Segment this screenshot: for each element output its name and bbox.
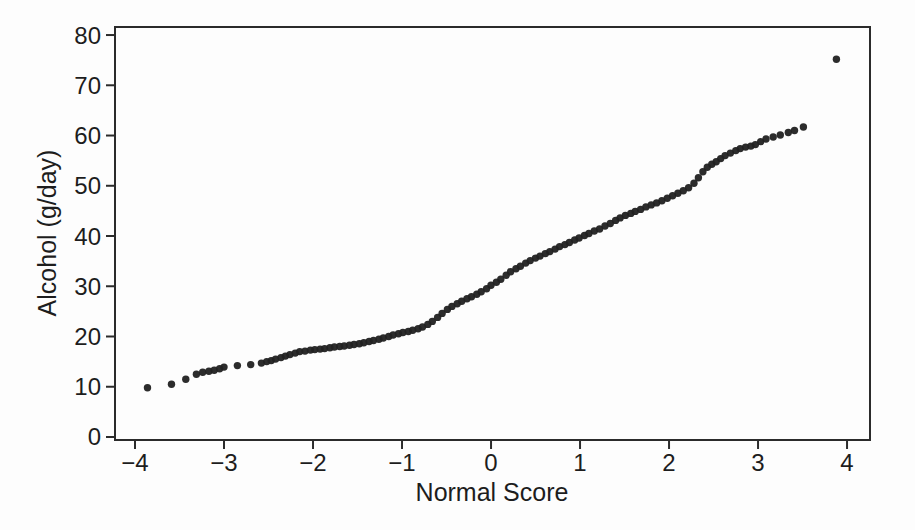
data-point [193,371,200,378]
data-point [220,363,227,370]
y-tick-label: 50 [74,172,101,199]
y-tick-label: 70 [74,72,101,99]
x-tick-label: −3 [210,449,237,476]
x-axis-ticks: −4−3−2−101234 [121,440,853,476]
y-tick-label: 40 [74,223,101,250]
x-tick-label: 3 [751,449,764,476]
data-point [182,376,189,383]
y-axis-ticks: 01020304050607080 [74,22,115,451]
y-tick-label: 80 [74,22,101,49]
data-point [791,127,798,134]
x-tick-label: −4 [121,449,148,476]
data-point [800,123,807,130]
y-tick-label: 20 [74,323,101,350]
data-point [770,133,777,140]
data-point [199,369,206,376]
data-point [833,56,840,63]
x-tick-label: 0 [484,449,497,476]
y-tick-label: 60 [74,122,101,149]
data-point [144,384,151,391]
y-tick-label: 10 [74,373,101,400]
data-point [168,381,175,388]
data-point [247,361,254,368]
x-axis-title: Normal Score [416,478,569,506]
qq-plot-figure: 01020304050607080 −4−3−2−101234 Normal S… [0,0,915,530]
data-point [234,362,241,369]
data-point [777,131,784,138]
x-tick-label: −2 [299,449,326,476]
y-axis-title: Alcohol (g/day) [33,150,61,317]
x-tick-label: 2 [662,449,675,476]
y-tick-label: 0 [88,423,101,450]
data-point [762,135,769,142]
plot-border [115,27,870,440]
data-points [144,56,840,392]
x-tick-label: 4 [840,449,853,476]
data-point [695,174,702,181]
x-tick-label: −1 [388,449,415,476]
x-tick-label: 1 [573,449,586,476]
qq-plot-canvas: 01020304050607080 −4−3−2−101234 Normal S… [0,0,915,530]
y-tick-label: 30 [74,273,101,300]
